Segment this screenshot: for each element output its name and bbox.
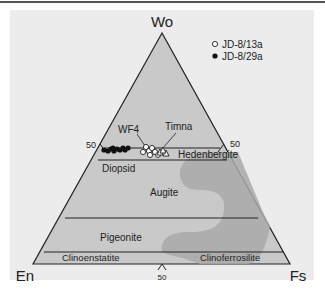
field-label-diopsid: Diopsid: [102, 163, 135, 174]
legend: JD-8/13a JD-8/29a: [212, 39, 263, 62]
field-label-clinoenstatite: Clinoenstatite: [62, 252, 120, 263]
legend-label-jd-8-29a: JD-8/29a: [222, 51, 263, 62]
tick-label-bottom: 50: [158, 273, 167, 282]
field-label-clinoferrosilite: Clinoferrosilite: [200, 252, 260, 263]
vertex-en-label: En: [16, 267, 34, 284]
legend-label-jd-8-13a: JD-8/13a: [222, 39, 263, 50]
vertex-wo-label: Wo: [151, 13, 173, 30]
legend-filled-circle-icon: [212, 53, 217, 58]
tick-bottom-50: [158, 264, 166, 270]
ternary-diagram: Wo En Fs 50 50 50 Diopsid Hedenbergite A…: [0, 0, 325, 289]
field-label-hedenbergite: Hedenbergite: [178, 149, 238, 160]
annotation-timna: Timna: [165, 121, 193, 132]
field-label-pigeonite: Pigeonite: [100, 232, 142, 243]
vertex-fs-label: Fs: [290, 267, 307, 284]
annotation-wf4: WF4: [118, 124, 140, 135]
field-label-augite: Augite: [150, 187, 179, 198]
tick-label-left: 50: [86, 140, 96, 150]
legend-open-circle-icon: [212, 41, 217, 46]
tick-label-right: 50: [230, 139, 240, 149]
